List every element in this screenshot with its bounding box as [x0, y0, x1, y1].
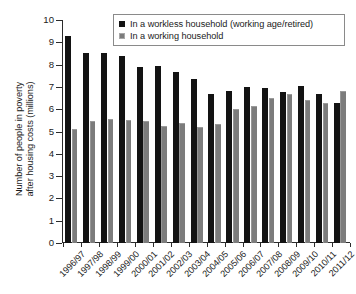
y-axis-tick: [56, 42, 62, 43]
bar-working-household: [340, 91, 346, 243]
y-axis-tick-label: 5: [0, 126, 54, 137]
x-axis-tick: [296, 243, 297, 247]
y-axis-tick-label: 9: [0, 36, 54, 47]
bar-working-household: [305, 100, 311, 243]
bar-group: [226, 20, 244, 243]
y-axis-tick: [56, 20, 62, 21]
bar-working-household: [72, 129, 78, 243]
y-axis-tick-label: 3: [0, 170, 54, 181]
y-axis-tick: [56, 198, 62, 199]
y-axis-tick-label: 6: [0, 103, 54, 114]
bar-workless-household: [119, 56, 125, 243]
y-axis-tick-label: 0: [0, 237, 54, 248]
bar-workless-household: [155, 66, 161, 243]
x-axis-tick: [243, 243, 244, 247]
bar-workless-household: [101, 53, 107, 243]
y-axis-tick: [56, 87, 62, 88]
bar-working-household: [215, 124, 221, 243]
bar-workless-household: [137, 67, 143, 243]
x-axis-tick: [332, 243, 333, 247]
y-axis-tick: [56, 132, 62, 133]
x-axis-tick: [278, 243, 279, 247]
bar-group: [173, 20, 191, 243]
legend-label-workless: In a workless household (working age/ret…: [130, 19, 313, 29]
x-axis-tick: [99, 243, 100, 247]
bar-group: [280, 20, 298, 243]
bar-workless-household: [262, 88, 268, 243]
bar-workless-household: [191, 79, 197, 243]
x-axis-tick: [189, 243, 190, 247]
legend-swatch-icon-working: [119, 33, 125, 39]
bar-group: [208, 20, 226, 243]
y-axis-tick: [56, 221, 62, 222]
bar-workless-household: [208, 94, 214, 243]
bar-group: [334, 20, 352, 243]
bar-group: [119, 20, 137, 243]
bar-working-household: [126, 120, 132, 243]
y-axis-tick: [56, 176, 62, 177]
bar-group: [65, 20, 83, 243]
x-axis-tick: [314, 243, 315, 247]
bar-workless-household: [65, 36, 71, 243]
bar-series-container: [63, 20, 350, 243]
bar-working-household: [233, 109, 239, 243]
bar-group: [191, 20, 209, 243]
bar-workless-household: [83, 53, 89, 243]
x-axis-tick: [135, 243, 136, 247]
bar-group: [298, 20, 316, 243]
bar-workless-household: [298, 86, 304, 243]
bar-workless-household: [173, 72, 179, 243]
legend-swatch-icon-workless: [119, 21, 125, 27]
bar-working-household: [197, 127, 203, 243]
bar-workless-household: [226, 91, 232, 243]
x-axis-tick: [117, 243, 118, 247]
bar-group: [83, 20, 101, 243]
bar-working-household: [90, 121, 96, 243]
y-axis-tick: [56, 65, 62, 66]
bar-working-household: [269, 98, 275, 243]
bar-working-household: [179, 123, 185, 243]
bar-working-household: [143, 121, 149, 243]
bar-working-household: [251, 106, 257, 243]
x-axis-tick: [63, 243, 64, 247]
x-axis-tick: [225, 243, 226, 247]
x-axis-tick: [81, 243, 82, 247]
bar-group: [137, 20, 155, 243]
y-axis-tick-label: 4: [0, 148, 54, 159]
y-axis-tick-label: 2: [0, 192, 54, 203]
legend-label-working: In a working household: [130, 31, 223, 41]
x-axis-tick: [350, 243, 351, 247]
bar-working-household: [161, 126, 167, 243]
chart-legend: In a workless household (working age/ret…: [113, 14, 345, 46]
y-axis-tick: [56, 109, 62, 110]
bar-workless-household: [244, 87, 250, 243]
x-axis-tick: [171, 243, 172, 247]
y-axis-tick: [56, 154, 62, 155]
y-axis-tick-label: 10: [0, 14, 54, 25]
y-axis-tick-label: 1: [0, 215, 54, 226]
bar-working-household: [287, 94, 293, 243]
bar-group: [101, 20, 119, 243]
bar-workless-household: [334, 103, 340, 243]
bar-group: [155, 20, 173, 243]
y-axis-tick-label: 7: [0, 81, 54, 92]
x-axis-tick: [260, 243, 261, 247]
bar-group: [244, 20, 262, 243]
x-axis-tick: [153, 243, 154, 247]
bar-working-household: [323, 103, 329, 243]
bar-workless-household: [280, 92, 286, 243]
bar-workless-household: [316, 94, 322, 243]
x-axis-tick: [207, 243, 208, 247]
legend-item-workless: In a workless household (working age/ret…: [119, 18, 339, 30]
y-axis-tick-label: 8: [0, 59, 54, 70]
legend-item-working: In a working household: [119, 30, 339, 42]
bar-group: [262, 20, 280, 243]
bar-working-household: [108, 119, 114, 243]
bar-group: [316, 20, 334, 243]
y-axis-tick: [56, 243, 62, 244]
